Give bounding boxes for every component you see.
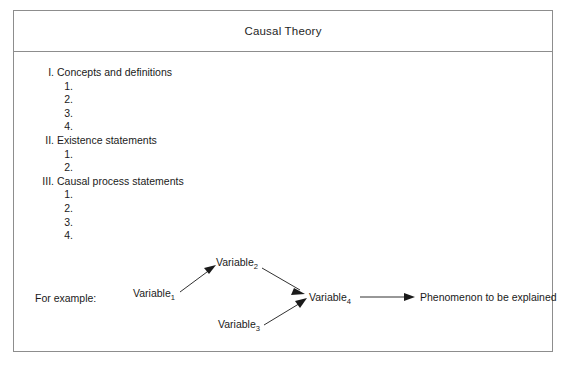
outline-row: I. Concepts and definitions: [31, 66, 331, 80]
outline-row: 1.: [31, 148, 331, 162]
causal-flow-svg: Variable1 Variable2 Variable3 Variable4 …: [14, 248, 554, 358]
node-variable-4: Variable4: [309, 291, 351, 306]
outline-marker: 4.: [31, 120, 76, 134]
outline-row: 2.: [31, 161, 331, 175]
outline-marker: 1.: [31, 188, 76, 202]
outline-row: II. Existence statements: [31, 134, 331, 148]
outline-row: 3.: [31, 216, 331, 230]
outline-list: I. Concepts and definitions 1. 2. 3. 4. …: [31, 66, 331, 243]
node-variable-2: Variable2: [216, 256, 258, 271]
outline-row: 2.: [31, 93, 331, 107]
outline-row: 4.: [31, 229, 331, 243]
example-diagram: For example:: [14, 248, 552, 358]
outline-marker: 1.: [31, 80, 76, 94]
outline-marker: I.: [31, 66, 57, 80]
outline-label: Causal process statements: [57, 175, 184, 189]
outline-row: 1.: [31, 188, 331, 202]
figure-frame: Causal Theory I. Concepts and definition…: [13, 10, 553, 352]
arrow-v4-to-outcome: [360, 293, 415, 301]
outline-row: 1.: [31, 80, 331, 94]
outline-marker: 1.: [31, 148, 76, 162]
outline-marker: 3.: [31, 216, 76, 230]
outline-marker: II.: [31, 134, 57, 148]
outline-row: 4.: [31, 120, 331, 134]
outline-marker: 4.: [31, 229, 76, 243]
arrow-v2-to-v4: [262, 268, 305, 295]
outline-marker: 2.: [31, 161, 76, 175]
node-variable-3: Variable3: [218, 318, 260, 333]
outline-marker: 2.: [31, 202, 76, 216]
figure-body: I. Concepts and definitions 1. 2. 3. 4. …: [14, 52, 552, 351]
arrow-v1-to-v2: [180, 265, 216, 292]
figure-title: Causal Theory: [244, 25, 321, 37]
outline-row: III. Causal process statements: [31, 175, 331, 189]
outline-row: 3.: [31, 107, 331, 121]
arrow-v3-to-v4: [264, 298, 307, 325]
node-variable-1: Variable1: [133, 287, 175, 302]
outline-label: Existence statements: [57, 134, 157, 148]
outline-label: Concepts and definitions: [57, 66, 172, 80]
outline-marker: 3.: [31, 107, 76, 121]
figure-header: Causal Theory: [14, 11, 552, 52]
outline-marker: III.: [31, 175, 57, 189]
outline-row: 2.: [31, 202, 331, 216]
outline-marker: 2.: [31, 93, 76, 107]
node-outcome: Phenomenon to be explained: [420, 291, 557, 303]
